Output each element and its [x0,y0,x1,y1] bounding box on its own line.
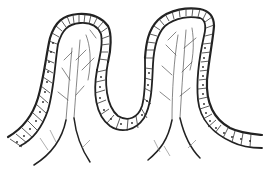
submucosa-fine-branches [40,130,196,156]
epithelium-outer-outline [8,8,262,137]
villi-illustration [0,0,270,169]
submucosa-strands [34,118,200,165]
epithelium-inner-outline [20,17,262,148]
lamina-propria-vessels [58,28,196,120]
